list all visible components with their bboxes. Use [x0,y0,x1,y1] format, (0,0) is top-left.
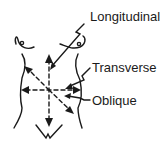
leader-transverse [65,68,90,89]
abdomen-incision-diagram: Longitudinal Transverse Oblique [0,0,167,147]
label-transverse: Transverse [92,61,157,74]
arrow-left-icon [21,86,29,94]
label-oblique: Oblique [92,94,137,107]
left-nipple-icon [20,41,23,44]
arrow-right-icon [73,86,81,94]
torso-outline-right [60,36,85,128]
leader-oblique [64,93,90,100]
arrow-up-icon [45,54,53,63]
right-nipple-icon [77,42,80,45]
label-longitudinal: Longitudinal [90,10,160,23]
leader-arrowhead-icon [65,83,73,89]
leader-arrowhead-icon [64,93,71,99]
torso-outline-left [14,37,34,128]
oblique-incision [24,66,74,114]
arrow-down-icon [45,118,53,127]
